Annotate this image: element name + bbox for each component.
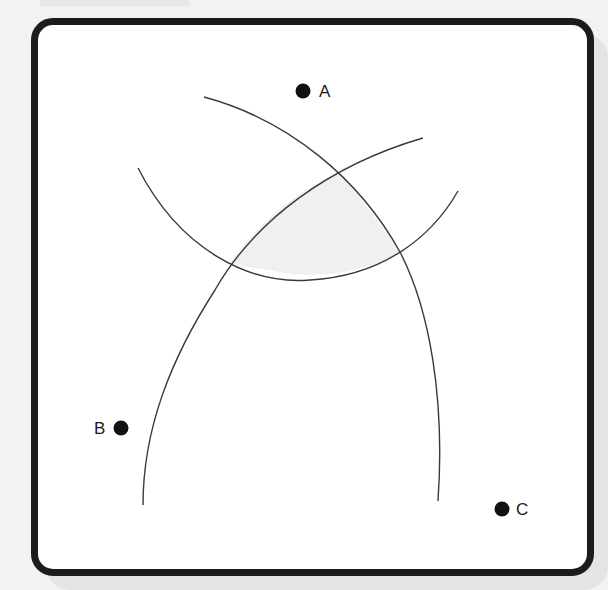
point-a-label: A [319, 82, 331, 101]
point-b [114, 421, 129, 436]
point-a [296, 84, 311, 99]
point-c [495, 502, 510, 517]
point-b-label: B [94, 419, 105, 438]
point-c-label: C [516, 500, 528, 519]
arc-2 [143, 138, 423, 505]
arc-3 [204, 97, 440, 501]
diagram-canvas: A B C [0, 0, 608, 590]
